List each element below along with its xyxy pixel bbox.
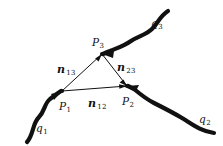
curve-label-q1: q1 — [36, 119, 48, 136]
point-label-p3-subscript: 3 — [99, 42, 104, 50]
separation-label-n12-base: n — [88, 97, 96, 110]
separation-label-n13-subscript: 13 — [65, 69, 76, 77]
curve-label-q3-base: q — [151, 17, 158, 29]
curve-label-q3-subscript: 3 — [158, 23, 163, 31]
figure-vector-graphics — [0, 0, 223, 146]
vertex-marker-p1 — [60, 89, 64, 93]
curve-label-q1-subscript: 1 — [43, 128, 48, 136]
separation-label-n23-base: n — [117, 61, 125, 74]
point-label-p1-subscript: 1 — [66, 106, 71, 114]
point-label-p2-subscript: 2 — [129, 101, 134, 109]
curve-label-q2-subscript: 2 — [206, 119, 211, 127]
vertex-marker-p2 — [125, 84, 129, 88]
segment-n12 — [62, 86, 127, 91]
point-label-p2: P2 — [122, 92, 134, 109]
separation-label-n12-subscript: 12 — [96, 103, 107, 111]
separation-label-n13: n13 — [57, 60, 76, 77]
curve-label-q2: q2 — [199, 110, 211, 127]
point-label-p1: P1 — [59, 97, 71, 114]
curve-label-q3: q3 — [151, 14, 163, 31]
vertex-marker-p3 — [100, 52, 104, 56]
curve-label-q1-base: q — [36, 122, 43, 134]
separation-label-n23-subscript: 23 — [125, 67, 136, 75]
figure-canvas: P1 P2 P3 n12 n13 n23 q1 q2 q3 — [0, 0, 223, 146]
curve-label-q2-base: q — [199, 113, 206, 125]
separation-label-n12: n12 — [88, 94, 107, 111]
point-label-p3: P3 — [92, 33, 104, 50]
separation-label-n23: n23 — [117, 58, 136, 75]
separation-label-n13-base: n — [57, 63, 65, 76]
